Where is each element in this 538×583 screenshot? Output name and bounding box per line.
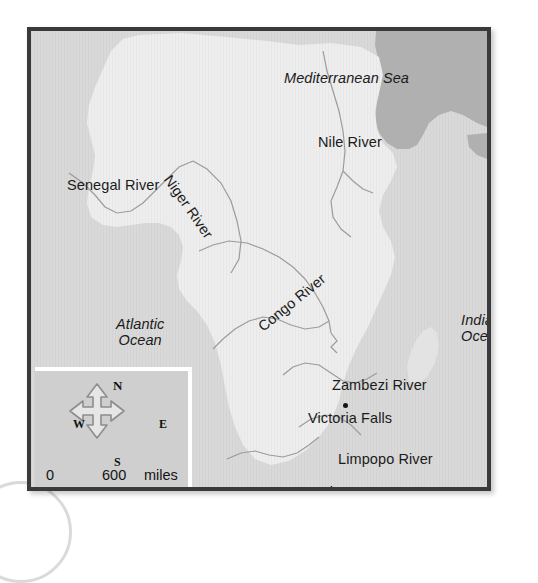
map-legend-inset: N S W E 0 600 miles 0 965 km [35,367,192,491]
compass-west-label: W [73,417,85,432]
compass-arrows-icon [57,375,137,447]
compass-north-label: N [113,378,122,394]
victoria-falls-marker-dot [343,403,348,408]
compass-rose: N S W E [57,375,137,447]
page-edge-artifact [0,481,72,583]
compass-east-label: E [159,417,167,432]
scale-miles-value: 600 [102,467,126,483]
scale-miles-unit: miles [144,467,178,483]
map-frame[interactable]: Mediterranean Sea Nile River Senegal Riv… [27,27,491,491]
scale-bar: 0 600 miles 0 965 km [44,467,188,491]
scale-miles-zero: 0 [46,467,54,483]
